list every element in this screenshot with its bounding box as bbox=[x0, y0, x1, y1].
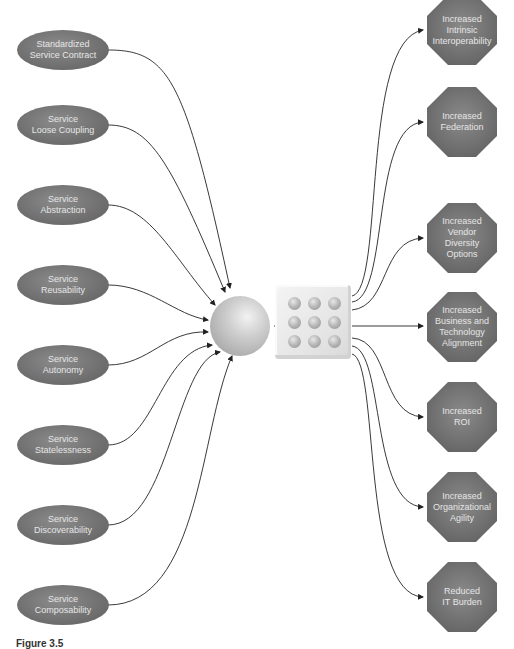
goal-label: Business and bbox=[435, 316, 489, 327]
goal-label: Increased bbox=[442, 406, 482, 417]
principle-abstraction: Service Abstraction bbox=[17, 185, 109, 225]
principle-label: Service bbox=[48, 274, 78, 285]
principle-label: Abstraction bbox=[40, 205, 85, 216]
service-ball-icon bbox=[328, 316, 341, 329]
service-ball-icon bbox=[328, 335, 341, 348]
goal-label: Vendor bbox=[448, 227, 477, 238]
goal-label: Increased bbox=[442, 216, 482, 227]
goal-label: Increased bbox=[442, 111, 482, 122]
principle-label: Service bbox=[48, 354, 78, 365]
service-inventory-box-icon bbox=[275, 285, 351, 359]
principle-label: Service Contract bbox=[30, 50, 97, 61]
principle-label: Service bbox=[48, 514, 78, 525]
principle-discoverability: Service Discoverability bbox=[17, 505, 109, 545]
service-ball-icon bbox=[288, 335, 301, 348]
principle-autonomy: Service Autonomy bbox=[17, 345, 109, 385]
service-ball-icon bbox=[288, 316, 301, 329]
goal-label: Diversity bbox=[445, 238, 480, 249]
goal-vendor-diversity: Increased Vendor Diversity Options bbox=[427, 203, 497, 273]
principle-label: Service bbox=[48, 434, 78, 445]
principle-statelessness: Service Statelessness bbox=[17, 425, 109, 465]
goal-business-technology-alignment: Increased Business and Technology Alignm… bbox=[427, 292, 497, 362]
goal-organizational-agility: Increased Organizational Agility bbox=[427, 472, 497, 542]
goal-label: Options bbox=[446, 249, 477, 260]
service-ball-icon bbox=[308, 297, 321, 310]
goal-label: Increased bbox=[442, 491, 482, 502]
goal-label: Agility bbox=[450, 513, 474, 524]
goal-label: Technology bbox=[439, 327, 485, 338]
principle-label: Statelessness bbox=[35, 445, 91, 456]
principle-label: Reusability bbox=[41, 285, 85, 296]
service-ball-icon bbox=[288, 297, 301, 310]
goal-label: Alignment bbox=[442, 338, 482, 349]
goal-federation: Increased Federation bbox=[427, 87, 497, 157]
goal-label: Increased bbox=[442, 14, 482, 25]
goal-label: Increased bbox=[442, 305, 482, 316]
service-ball-icon bbox=[308, 335, 321, 348]
principle-loose-coupling: Service Loose Coupling bbox=[17, 105, 109, 145]
goal-reduced-it-burden: Reduced IT Burden bbox=[427, 562, 497, 632]
principle-label: Autonomy bbox=[43, 365, 84, 376]
principle-reusability: Service Reusability bbox=[17, 265, 109, 305]
principle-standardized-service-contract: Standardized Service Contract bbox=[17, 30, 109, 70]
principle-label: Loose Coupling bbox=[32, 125, 95, 136]
principle-label: Standardized bbox=[36, 39, 89, 50]
principle-label: Composability bbox=[35, 605, 92, 616]
goal-label: Interoperability bbox=[432, 36, 491, 47]
service-orientation-sphere-icon bbox=[210, 296, 270, 356]
service-ball-icon bbox=[328, 297, 341, 310]
goal-label: ROI bbox=[454, 417, 470, 428]
goal-roi: Increased ROI bbox=[427, 382, 497, 452]
goal-label: Reduced bbox=[444, 586, 480, 597]
goal-label: Intrinsic bbox=[446, 25, 477, 36]
service-ball-icon bbox=[308, 316, 321, 329]
principle-label: Discoverability bbox=[34, 525, 92, 536]
principle-label: Service bbox=[48, 114, 78, 125]
figure-caption: Figure 3.5 bbox=[16, 638, 63, 649]
goal-label: IT Burden bbox=[442, 597, 481, 608]
goal-label: Federation bbox=[440, 122, 483, 133]
principle-label: Service bbox=[48, 594, 78, 605]
principle-composability: Service Composability bbox=[17, 585, 109, 625]
goal-label: Organizational bbox=[433, 502, 491, 513]
principle-label: Service bbox=[48, 194, 78, 205]
